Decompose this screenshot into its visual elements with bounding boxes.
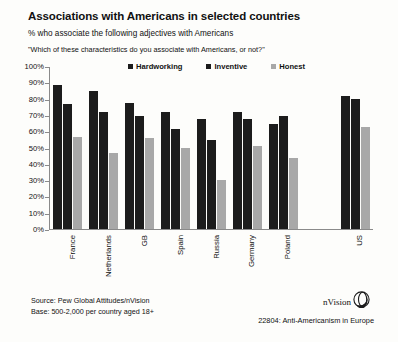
- bar-netherlands-hardworking[interactable]: [89, 91, 98, 229]
- y-tick-label: 20%: [29, 194, 44, 202]
- bar-russia-hardworking[interactable]: [197, 119, 206, 229]
- bar-group-russia: Russia: [194, 67, 230, 229]
- chart-page: Associations with Americans in selected …: [0, 0, 398, 342]
- bar-groups: FranceNetherlandsGBSpainRussiaGermanyPol…: [50, 67, 373, 229]
- y-tick-mark: [45, 67, 49, 68]
- x-axis-label-spain: Spain: [176, 235, 185, 255]
- y-tick-mark: [45, 197, 49, 198]
- bar-gb-inventive[interactable]: [135, 116, 144, 229]
- x-axis-label-germany: Germany: [247, 235, 256, 267]
- y-tick-label: 50%: [29, 145, 44, 153]
- bar-netherlands-inventive[interactable]: [99, 112, 108, 229]
- x-axis-label-netherlands: Netherlands: [104, 235, 113, 277]
- bar-group-spain: Spain: [158, 67, 194, 229]
- bar-netherlands-honest[interactable]: [109, 153, 118, 229]
- bar-gb-honest[interactable]: [145, 138, 154, 229]
- y-tick-mark: [45, 100, 49, 101]
- bar-poland-honest[interactable]: [289, 158, 298, 229]
- bar-us-hardworking[interactable]: [341, 96, 350, 229]
- bar-group-france: France: [50, 67, 86, 229]
- y-tick-label: 40%: [29, 161, 44, 169]
- bar-russia-honest[interactable]: [217, 180, 226, 229]
- x-axis-line: [49, 229, 373, 230]
- bar-group-spacer: [301, 67, 337, 229]
- y-tick-label: 0%: [33, 226, 44, 234]
- y-tick-label: 10%: [29, 210, 44, 218]
- bar-poland-inventive[interactable]: [279, 116, 288, 229]
- x-axis-label-poland: Poland: [283, 235, 292, 259]
- chart-caption: 22804: Anti-Americanism in Europe: [258, 316, 374, 325]
- bar-us-honest[interactable]: [361, 127, 370, 229]
- bar-germany-hardworking[interactable]: [233, 112, 242, 229]
- y-tick-mark: [45, 181, 49, 182]
- x-axis-label-us: US: [355, 235, 364, 246]
- chart-subtitle: % who associate the following adjectives…: [28, 29, 233, 38]
- bar-group-poland: Poland: [265, 67, 301, 229]
- bar-group-us: US: [337, 67, 373, 229]
- bar-us-inventive[interactable]: [351, 99, 360, 229]
- bar-france-honest[interactable]: [73, 137, 82, 229]
- y-tick-label: 80%: [29, 96, 44, 104]
- y-tick-mark: [45, 214, 49, 215]
- bar-group-germany: Germany: [229, 67, 265, 229]
- nvision-ring-icon: [353, 291, 370, 312]
- y-tick-mark: [45, 230, 49, 231]
- bar-poland-hardworking[interactable]: [269, 124, 278, 229]
- bar-germany-inventive[interactable]: [243, 119, 252, 229]
- y-tick-mark: [45, 83, 49, 84]
- x-axis-label-france: France: [68, 235, 77, 259]
- bar-group-netherlands: Netherlands: [86, 67, 122, 229]
- page-title: Associations with Americans in selected …: [28, 10, 300, 22]
- y-tick-label: 70%: [29, 112, 44, 120]
- bar-russia-inventive[interactable]: [207, 140, 216, 229]
- bar-france-inventive[interactable]: [63, 104, 72, 229]
- bar-group-gb: GB: [122, 67, 158, 229]
- source-note: Source: Pew Global Attitudes/nVision: [31, 296, 150, 305]
- brand-logo: nVision: [323, 291, 370, 312]
- bar-spain-honest[interactable]: [181, 148, 190, 229]
- plot-area: 0%10%20%30%40%50%60%70%80%90%100% France…: [49, 67, 373, 230]
- y-tick-label: 100%: [25, 63, 44, 71]
- y-tick-label: 30%: [29, 177, 44, 185]
- y-tick-mark: [45, 132, 49, 133]
- x-axis-label-gb: GB: [140, 235, 149, 246]
- bar-spain-hardworking[interactable]: [161, 112, 170, 229]
- bar-germany-honest[interactable]: [253, 146, 262, 229]
- x-axis-label-russia: Russia: [212, 235, 221, 259]
- bar-gb-hardworking[interactable]: [125, 103, 134, 229]
- bar-spain-inventive[interactable]: [171, 129, 180, 229]
- base-note: Base: 500-2,000 per country aged 18+: [31, 307, 154, 316]
- y-tick-mark: [45, 116, 49, 117]
- y-tick-mark: [45, 165, 49, 166]
- y-tick-label: 90%: [29, 80, 44, 88]
- bar-france-hardworking[interactable]: [53, 85, 62, 229]
- survey-question: "Which of these characteristics do you a…: [28, 45, 265, 54]
- brand-label: nVision: [323, 297, 351, 307]
- y-tick-mark: [45, 149, 49, 150]
- y-tick-label: 60%: [29, 128, 44, 136]
